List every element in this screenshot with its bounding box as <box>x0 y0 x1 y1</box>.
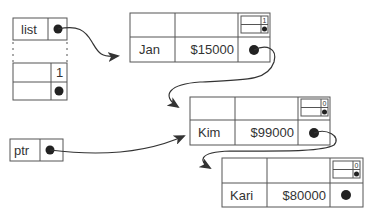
ptr-label: ptr <box>14 143 30 158</box>
svg-text:Kari: Kari <box>230 188 253 203</box>
node-kim: 0 Kim $99000 <box>190 97 330 145</box>
node-kari: 0 Kari $80000 <box>222 158 363 207</box>
svg-text:0: 0 <box>355 162 359 169</box>
diagram-canvas: list 1 1 Jan $15000 0 Kim <box>0 0 372 218</box>
arrow-ptr-to-kim <box>50 136 184 153</box>
node-jan: 1 Jan $15000 <box>130 13 270 62</box>
svg-text:$80000: $80000 <box>283 188 326 203</box>
svg-text:$99000: $99000 <box>251 125 294 140</box>
svg-text:1: 1 <box>263 17 267 24</box>
list-label: list <box>21 22 37 37</box>
pointer-dot-icon <box>55 87 64 96</box>
header-count: 1 <box>56 65 63 80</box>
header-count-box: 1 <box>13 63 67 100</box>
svg-text:Kim: Kim <box>198 125 220 140</box>
null-pointer-dot-icon <box>341 190 351 200</box>
svg-text:$15000: $15000 <box>191 42 234 57</box>
svg-text:0: 0 <box>323 100 327 107</box>
svg-text:Jan: Jan <box>139 42 160 57</box>
